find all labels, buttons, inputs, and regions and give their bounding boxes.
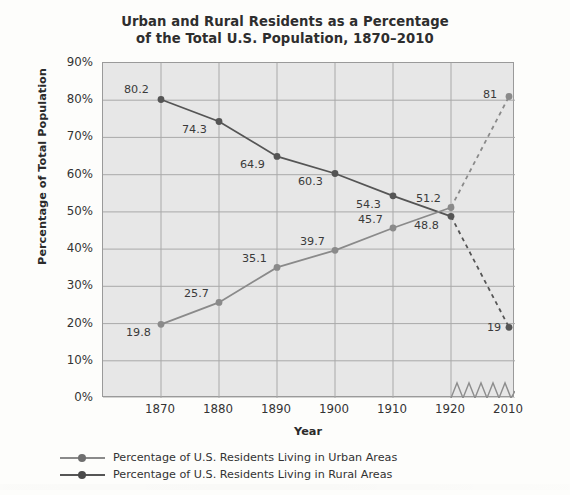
y-tick-label-60: 60% [33,168,93,180]
urban-data-label-1920: 51.2 [416,193,441,204]
legend-marker-rural-icon [60,469,105,481]
y-tick-label-20: 20% [33,317,93,329]
chart-figure: Urban and Rural Residents as a Percentag… [0,0,570,495]
vertical-gridlines [161,63,451,398]
y-axis-title: Percentage of Total Population [36,37,49,297]
axis-break-zigzag [451,383,515,398]
rural-data-label-1890: 64.9 [240,159,265,170]
y-tick-label-10: 10% [33,354,93,366]
rural-series-line [161,100,451,217]
rural-data-label-2010: 19 [487,322,501,333]
rural-data-label-1870: 80.2 [124,84,149,95]
urban-data-label-1880: 25.7 [184,288,209,299]
legend-marker-urban-icon [60,452,105,464]
y-tick-label-90: 90% [33,56,93,68]
chart-legend: Percentage of U.S. Residents Living in U… [60,449,510,483]
rural-data-label-1920: 48.8 [414,220,439,231]
urban-series-line-dashed [451,97,509,208]
rural-series-line-dashed [451,216,509,327]
chart-title-line-2: of the Total U.S. Population, 1870–2010 [0,30,570,47]
legend-item-urban[interactable]: Percentage of U.S. Residents Living in U… [60,449,510,466]
legend-label-urban: Percentage of U.S. Residents Living in U… [113,451,397,464]
urban-data-label-1910: 45.7 [358,214,383,225]
legend-item-rural[interactable]: Percentage of U.S. Residents Living in R… [60,466,510,483]
horizontal-gridlines [103,100,515,398]
plot-svg [103,63,515,398]
paper-bleed-artifact [0,484,570,490]
plot-area: 80.2 74.3 64.9 60.3 54.3 48.8 19 19.8 25… [102,62,514,397]
y-tick-label-50: 50% [33,205,93,217]
urban-data-label-1890: 35.1 [242,253,267,264]
rural-data-label-1910: 54.3 [356,199,381,210]
legend-label-rural: Percentage of U.S. Residents Living in R… [113,468,392,481]
urban-data-label-1870: 19.8 [126,327,151,338]
y-tick-label-80: 80% [33,93,93,105]
x-axis-title: Year [102,425,514,438]
y-tick-label-40: 40% [33,242,93,254]
urban-series-line [161,208,451,325]
y-tick-label-0: 0% [33,391,93,403]
y-tick-label-30: 30% [33,279,93,291]
chart-title-line-1: Urban and Rural Residents as a Percentag… [121,14,449,29]
chart-title: Urban and Rural Residents as a Percentag… [0,13,570,47]
x-tick-label-2010: 2010 [473,402,543,416]
y-tick-label-70: 70% [33,130,93,142]
rural-data-label-1880: 74.3 [182,124,207,135]
urban-data-label-1900: 39.7 [300,236,325,247]
urban-data-label-2010: 81 [483,89,497,100]
rural-data-label-1900: 60.3 [298,176,323,187]
